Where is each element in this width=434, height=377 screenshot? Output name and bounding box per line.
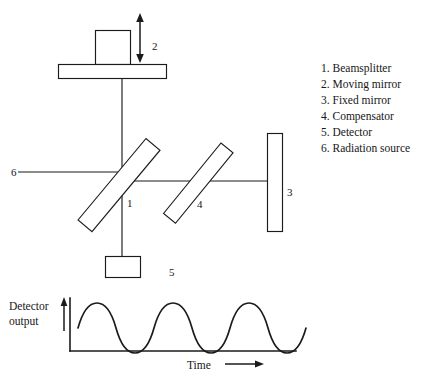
callout-fixed-mirror: 3 (287, 186, 293, 198)
chart-ylabel-line2: output (9, 315, 39, 328)
legend-item-6: 6. Radiation source (321, 142, 410, 154)
legend-list: 1. Beamsplitter 2. Moving mirror 3. Fixe… (321, 62, 410, 154)
figure-root: 1 2 3 4 5 6 1. Beamsplitter 2. Moving mi… (0, 0, 434, 377)
callout-moving-mirror: 2 (152, 40, 158, 52)
chart-waveform (78, 303, 306, 353)
arrow-head-down-icon (136, 54, 144, 63)
chart-ylabel-line1: Detector (9, 300, 49, 312)
interferometer-figure: 1 2 3 4 5 6 1. Beamsplitter 2. Moving mi… (0, 0, 434, 377)
legend-item-2: 2. Moving mirror (321, 78, 401, 91)
moving-mirror-assembly (59, 13, 167, 79)
legend-item-3: 3. Fixed mirror (321, 94, 391, 106)
moving-mirror-travel-arrow (136, 13, 144, 63)
beamsplitter (78, 139, 160, 232)
y-axis-direction-arrow (61, 297, 68, 331)
arrow-head-right-icon (255, 360, 264, 367)
callout-radiation-source: 6 (11, 166, 17, 178)
fixed-mirror (268, 134, 283, 232)
x-axis-direction-arrow (225, 360, 264, 367)
arrow-head-up-icon (136, 13, 144, 22)
detector (106, 257, 141, 278)
legend-item-4: 4. Compensator (321, 110, 394, 123)
compensator (164, 143, 234, 223)
fixed-mirror-plate (268, 134, 283, 232)
chart-xlabel: Time (187, 359, 211, 371)
moving-mirror-bar (59, 65, 167, 79)
arrow-head-up-icon (61, 297, 68, 306)
beamsplitter-plate (78, 139, 160, 232)
legend-item-1: 1. Beamsplitter (321, 62, 391, 75)
callout-compensator: 4 (197, 198, 203, 210)
compensator-plate (164, 143, 234, 223)
legend-item-5: 5. Detector (321, 126, 372, 138)
interferogram-chart: Detector output Time (9, 297, 306, 371)
detector-box (106, 257, 141, 278)
moving-mirror-block (96, 31, 131, 65)
callout-detector: 5 (169, 266, 175, 278)
callout-beamsplitter: 1 (127, 197, 133, 209)
